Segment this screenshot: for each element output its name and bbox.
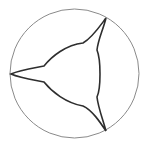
diagram-canvas [0,0,144,145]
three-pointed-star [11,18,106,131]
trefoil-diagram [0,0,144,145]
circumscribed-circle [10,9,139,138]
